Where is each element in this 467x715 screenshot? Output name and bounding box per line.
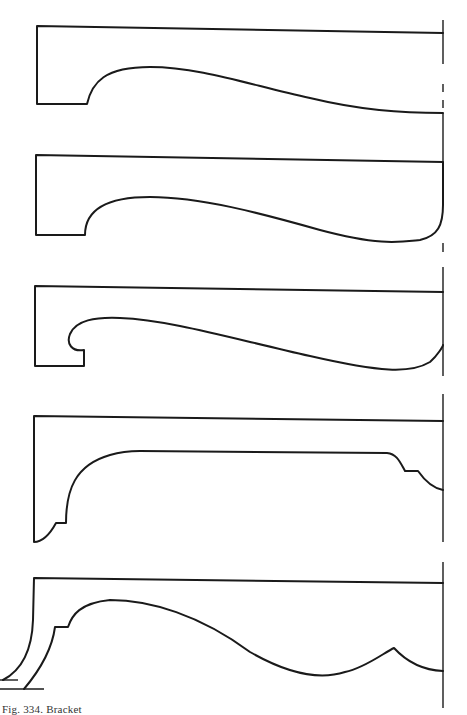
bracket-profile-2 (36, 120, 443, 252)
bracket-profile-5 (0, 562, 443, 708)
bracket-drawing (0, 0, 467, 715)
bracket-profile-1 (37, 20, 443, 120)
bracket-profile-4 (34, 394, 443, 542)
bracket-figure: Fig. 334. Bracket (0, 0, 467, 715)
figure-caption: Fig. 334. Bracket (2, 703, 82, 715)
bracket-profile-3 (35, 267, 443, 376)
